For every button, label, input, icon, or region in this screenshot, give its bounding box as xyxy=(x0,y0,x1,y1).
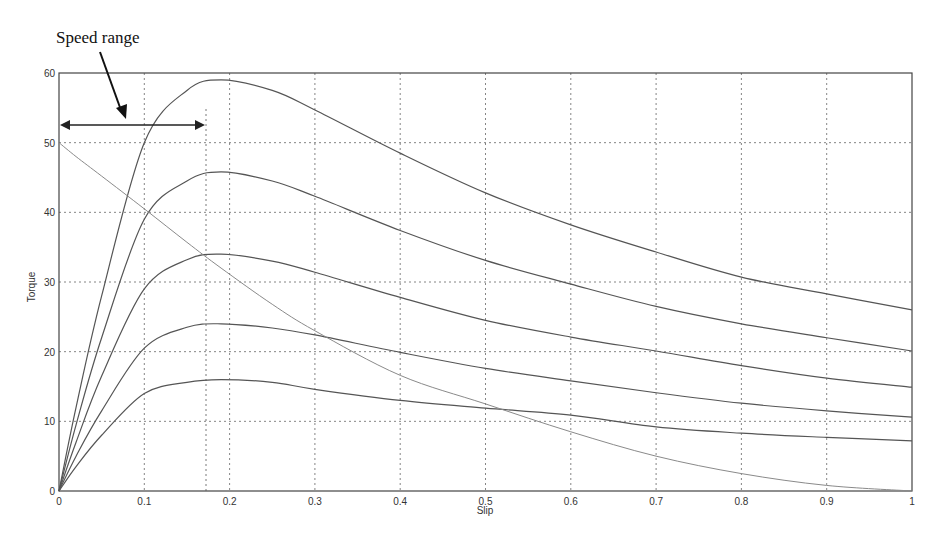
y-axis-label: Torque xyxy=(26,271,37,302)
y-tick-label: 50 xyxy=(44,138,56,149)
x-tick-label: 1 xyxy=(909,496,915,507)
x-tick-label: 0.3 xyxy=(308,496,322,507)
x-axis-label: Slip xyxy=(477,505,494,516)
torque-slip-chart: 00.10.20.30.40.50.60.70.80.91 0102030405… xyxy=(0,0,936,545)
y-axis-ticks: 0102030405060 xyxy=(44,68,56,497)
y-tick-label: 40 xyxy=(44,207,56,218)
speed-range-label: Speed range xyxy=(56,28,140,47)
grid-lines xyxy=(59,73,912,491)
x-tick-label: 0.7 xyxy=(649,496,663,507)
y-tick-label: 10 xyxy=(44,416,56,427)
y-tick-label: 60 xyxy=(44,68,56,79)
x-tick-label: 0.9 xyxy=(820,496,834,507)
y-tick-label: 0 xyxy=(49,486,55,497)
y-tick-label: 30 xyxy=(44,277,56,288)
x-tick-label: 0 xyxy=(56,496,62,507)
y-tick-label: 20 xyxy=(44,347,56,358)
pointer-arrow-shaft xyxy=(100,52,122,113)
x-tick-label: 0.1 xyxy=(137,496,151,507)
x-tick-label: 0.4 xyxy=(393,496,407,507)
pointer-arrow-head-icon xyxy=(116,104,127,119)
x-tick-label: 0.2 xyxy=(223,496,237,507)
x-tick-label: 0.8 xyxy=(734,496,748,507)
x-tick-label: 0.6 xyxy=(564,496,578,507)
range-arrow-left-icon xyxy=(60,120,70,130)
range-arrow-right-icon xyxy=(195,120,205,130)
